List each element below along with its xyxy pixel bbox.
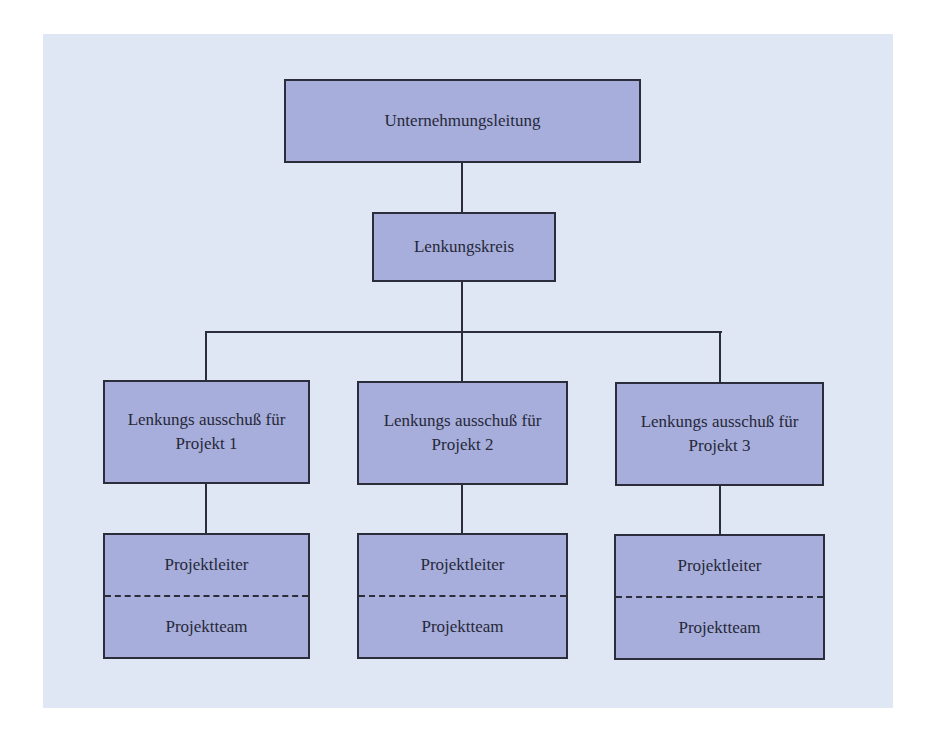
node-lenkungsausschuss-projekt-3: Lenkungs ausschuß für Projekt 3: [615, 382, 824, 486]
node-unternehmungsleitung: Unternehmungsleitung: [284, 79, 641, 163]
projektteam-section: Projektteam: [359, 597, 566, 657]
node-label-line2: Projekt 2: [384, 433, 542, 457]
connector-horizontal-bus: [205, 331, 722, 333]
connector-project-1-to-team: [205, 484, 207, 534]
projektleiter-label: Projektleiter: [420, 555, 504, 575]
node-lenkungskreis: Lenkungskreis: [372, 212, 556, 282]
projektteam-section: Projektteam: [616, 598, 823, 658]
node-label-line1: Lenkungs ausschuß für: [128, 408, 286, 432]
node-projektteam-3: Projektleiter Projektteam: [614, 534, 825, 660]
projektleiter-section: Projektleiter: [105, 535, 308, 597]
projektteam-section: Projektteam: [105, 597, 308, 657]
projektleiter-label: Projektleiter: [677, 556, 761, 576]
connector-project-2-to-team: [461, 485, 463, 534]
projektteam-label: Projektteam: [678, 618, 760, 638]
connector-project-3-to-team: [719, 486, 721, 535]
node-label: Unternehmungsleitung: [385, 109, 541, 133]
connector-bus-to-project-2: [461, 331, 463, 382]
connector-bus-to-project-3: [719, 331, 721, 383]
connector-bus-to-project-1: [205, 331, 207, 381]
projektleiter-section: Projektleiter: [359, 535, 566, 597]
projektteam-label: Projektteam: [165, 617, 247, 637]
node-label-line2: Projekt 1: [128, 432, 286, 456]
node-label-line2: Projekt 3: [641, 434, 799, 458]
node-lenkungsausschuss-projekt-1: Lenkungs ausschuß für Projekt 1: [103, 380, 310, 484]
node-projektteam-2: Projektleiter Projektteam: [357, 533, 568, 659]
node-label: Lenkungskreis: [414, 235, 514, 259]
projektteam-label: Projektteam: [421, 617, 503, 637]
node-projektteam-1: Projektleiter Projektteam: [103, 533, 310, 659]
node-label-line1: Lenkungs ausschuß für: [384, 409, 542, 433]
projektleiter-label: Projektleiter: [164, 555, 248, 575]
node-label-line1: Lenkungs ausschuß für: [641, 410, 799, 434]
connector-root-to-lenkungskreis: [461, 163, 463, 213]
connector-lenkungskreis-to-bus: [461, 282, 463, 333]
projektleiter-section: Projektleiter: [616, 536, 823, 598]
node-lenkungsausschuss-projekt-2: Lenkungs ausschuß für Projekt 2: [357, 381, 568, 485]
